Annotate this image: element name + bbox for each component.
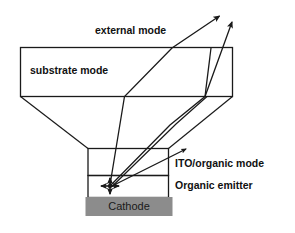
label-external-mode: external mode xyxy=(95,24,166,36)
figure-canvas: external mode substrate mode ITO/organic… xyxy=(0,0,295,233)
ito-organic-ray-reflection xyxy=(112,97,207,187)
label-substrate-mode: substrate mode xyxy=(30,64,108,76)
oled-mode-diagram: external mode substrate mode ITO/organic… xyxy=(0,0,295,233)
label-ito-organic-mode: ITO/organic mode xyxy=(175,157,264,169)
funnel-left-wall xyxy=(21,97,89,149)
emission-point-center xyxy=(108,184,112,188)
organic-emitter-layer-box xyxy=(88,176,169,198)
label-organic-emitter: Organic emitter xyxy=(175,179,253,191)
label-cathode: Cathode xyxy=(108,200,150,212)
